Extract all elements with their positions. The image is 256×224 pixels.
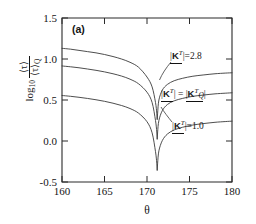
annotation-k-equals-kq: |KT| = |KTQ| <box>161 88 206 100</box>
tensor-kq-symbol: |KTQ <box>186 88 204 100</box>
x-tick-label: 170 <box>139 185 156 197</box>
tensor-k-symbol: |KT <box>172 120 185 131</box>
x-axis-title: θ <box>144 204 150 216</box>
y-axis-numerator: ⟨τ⟩ <box>19 59 29 75</box>
y-axis-fraction: ⟨τ⟩ ⟨τ⟩Q <box>19 57 42 78</box>
y-axis-ticks <box>62 18 232 182</box>
panel-label: (a) <box>72 23 85 35</box>
x-tick-labels: 160 165 170 175 180 <box>54 185 241 197</box>
y-axis-denominator: ⟨τ⟩Q <box>29 57 42 78</box>
leader-line-top <box>160 62 172 80</box>
y-tick-label: 1.5 <box>43 12 57 24</box>
x-tick-label: 180 <box>224 185 241 197</box>
annotation-k-1-0-number: 1.0 <box>192 121 204 131</box>
tensor-k-symbol: |KT <box>161 88 174 99</box>
y-axis-title: log10 ⟨τ⟩ ⟨τ⟩Q <box>13 25 47 133</box>
x-tick-label: 175 <box>181 185 198 197</box>
annotation-k-2-8-number: 2.8 <box>190 51 202 61</box>
annotation-k-2-8: |KT|=2.8 <box>170 50 202 61</box>
figure-panel-a: 160 165 170 175 180 1.5 1.0 0.5 0.0 -0.5… <box>0 0 256 224</box>
curve-layer <box>62 48 232 170</box>
annotation-k-1-0: |KT|=1.0 <box>172 120 204 131</box>
curve-series-0 <box>62 48 232 119</box>
axis-frame <box>62 18 232 182</box>
x-tick-label: 165 <box>96 185 113 197</box>
y-tick-label: -0.5 <box>40 176 58 188</box>
x-axis-ticks <box>62 18 232 182</box>
curve-series-2 <box>62 95 232 170</box>
leader-line-bottom <box>161 107 172 122</box>
y-tick-label: 0.0 <box>43 135 57 147</box>
y-axis-log-prefix: log10 <box>23 80 37 102</box>
tensor-k-symbol: |KT <box>170 50 183 61</box>
